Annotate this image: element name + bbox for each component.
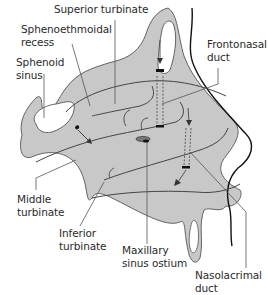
nasolacrimal-ostium — [182, 166, 190, 169]
nasal-cavity-diagram: Superior turbinate Sphenoethmoidal reces… — [0, 0, 268, 295]
label-middle-turbinate-line2: turbinate — [17, 206, 64, 219]
label-sphenoethmoidal-recess-line2: recess — [21, 36, 54, 49]
label-frontonasal-duct-line1: Frontonasal — [207, 38, 267, 51]
frontal-ostium-mark — [156, 69, 164, 72]
label-inferior-turbinate-line1: Inferior — [59, 227, 96, 240]
label-frontonasal-duct-line2: duct — [207, 51, 230, 64]
frontonasal-duct-ostium — [156, 125, 164, 128]
label-middle-turbinate-line1: Middle — [17, 193, 51, 206]
label-inferior-turbinate-line2: turbinate — [59, 240, 106, 253]
label-maxillary-ostium-line1: Maxillary — [122, 244, 169, 257]
leader-middle-turbinate — [36, 160, 76, 190]
label-nasolacrimal-duct-line1: Nasolacrimal — [195, 269, 262, 282]
label-maxillary-ostium-line2: sinus ostium — [122, 257, 187, 270]
label-sphenoid-sinus-line1: Sphenoid — [16, 56, 64, 69]
label-nasolacrimal-duct-line2: duct — [195, 282, 218, 295]
label-superior-turbinate: Superior turbinate — [54, 3, 148, 16]
maxillary-ostium-dot — [143, 139, 149, 142]
label-sphenoethmoidal-recess-line1: Sphenoethmoidal — [21, 23, 112, 36]
label-sphenoid-sinus-line2: sinus — [16, 69, 43, 82]
